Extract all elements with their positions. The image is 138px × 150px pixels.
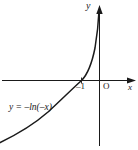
coordinate-plot	[0, 0, 138, 150]
axis-label-y: y	[86, 1, 90, 11]
axis-label-x: x	[128, 83, 132, 92]
curve-equation-label: y = –ln(–x)	[9, 103, 52, 113]
graph-figure: y x O –1 y = –ln(–x)	[0, 0, 138, 150]
logarithm-curve	[0, 11, 99, 144]
origin-label: O	[103, 82, 110, 91]
x-tick-label-neg1: –1	[76, 82, 85, 91]
